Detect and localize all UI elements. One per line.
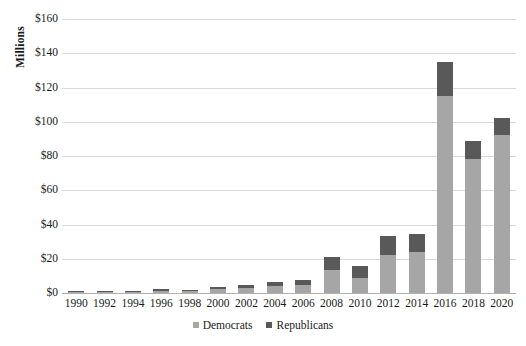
bar-segment-democrats[interactable] bbox=[153, 291, 169, 293]
gridline-160 bbox=[62, 19, 516, 20]
bar-2004[interactable] bbox=[267, 282, 283, 293]
bar-segment-democrats[interactable] bbox=[238, 288, 254, 293]
y-tick-label: $80 bbox=[4, 150, 58, 162]
bar-segment-republicans[interactable] bbox=[409, 234, 425, 252]
legend-label: Republicans bbox=[276, 319, 333, 331]
gridline-0 bbox=[62, 293, 516, 294]
bar-segment-democrats[interactable] bbox=[352, 278, 368, 293]
bar-segment-democrats[interactable] bbox=[324, 270, 340, 293]
bar-2012[interactable] bbox=[380, 236, 396, 293]
bar-1998[interactable] bbox=[182, 290, 198, 293]
bar-segment-democrats[interactable] bbox=[267, 286, 283, 293]
y-tick-label: $140 bbox=[4, 47, 58, 59]
legend-swatch-icon bbox=[266, 322, 272, 328]
bar-2016[interactable] bbox=[437, 62, 453, 293]
bar-segment-republicans[interactable] bbox=[437, 62, 453, 96]
bar-2008[interactable] bbox=[324, 257, 340, 293]
bar-2002[interactable] bbox=[238, 285, 254, 293]
bar-2018[interactable] bbox=[465, 141, 481, 293]
bar-segment-democrats[interactable] bbox=[68, 292, 84, 293]
bar-1990[interactable] bbox=[68, 291, 84, 293]
legend-item-republicans[interactable]: Republicans bbox=[266, 319, 333, 331]
bar-segment-republicans[interactable] bbox=[380, 236, 396, 256]
legend-label: Democrats bbox=[203, 319, 253, 331]
y-tick-label: $0 bbox=[4, 287, 58, 299]
bar-segment-democrats[interactable] bbox=[182, 291, 198, 293]
bar-segment-democrats[interactable] bbox=[210, 289, 226, 293]
bar-2020[interactable] bbox=[494, 118, 510, 293]
bar-segment-democrats[interactable] bbox=[409, 252, 425, 293]
plot-area bbox=[62, 19, 516, 293]
x-axis-tick-labels: 1990199219941996199820002002200420062008… bbox=[62, 296, 516, 312]
legend-swatch-icon bbox=[193, 322, 199, 328]
bar-1992[interactable] bbox=[97, 291, 113, 293]
y-tick-label: $40 bbox=[4, 219, 58, 231]
bar-segment-democrats[interactable] bbox=[97, 292, 113, 293]
y-tick-label: $60 bbox=[4, 184, 58, 196]
y-axis-tick-labels: $160$140$120$100$80$60$40$20$0 bbox=[0, 19, 58, 293]
bar-segment-democrats[interactable] bbox=[295, 285, 311, 293]
gridline-140 bbox=[62, 53, 516, 54]
bar-segment-democrats[interactable] bbox=[380, 255, 396, 293]
bar-segment-republicans[interactable] bbox=[494, 118, 510, 135]
chart-legend: DemocratsRepublicans bbox=[0, 319, 526, 331]
y-tick-label: $120 bbox=[4, 82, 58, 94]
y-tick-label: $100 bbox=[4, 116, 58, 128]
legend-item-democrats[interactable]: Democrats bbox=[193, 319, 253, 331]
bar-2010[interactable] bbox=[352, 266, 368, 293]
bar-segment-republicans[interactable] bbox=[352, 266, 368, 278]
bar-segment-democrats[interactable] bbox=[125, 292, 141, 293]
bar-2014[interactable] bbox=[409, 234, 425, 293]
y-tick-label: $20 bbox=[4, 253, 58, 265]
bar-segment-democrats[interactable] bbox=[437, 96, 453, 293]
bar-1996[interactable] bbox=[153, 289, 169, 293]
bar-segment-democrats[interactable] bbox=[465, 159, 481, 293]
y-tick-label: $160 bbox=[4, 13, 58, 25]
x-tick-label-2020: 2020 bbox=[480, 296, 524, 310]
bar-segment-republicans[interactable] bbox=[465, 141, 481, 160]
bar-2006[interactable] bbox=[295, 280, 311, 293]
bar-2000[interactable] bbox=[210, 287, 226, 293]
bar-segment-democrats[interactable] bbox=[494, 135, 510, 293]
bar-1994[interactable] bbox=[125, 291, 141, 293]
bar-segment-republicans[interactable] bbox=[324, 257, 340, 270]
stacked-bar-chart: Millions $160$140$120$100$80$60$40$20$0 … bbox=[0, 0, 526, 346]
